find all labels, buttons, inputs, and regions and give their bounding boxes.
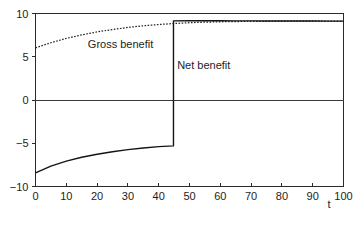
x-tick-label-0: 0 <box>32 190 38 202</box>
x-axis-title-label: t <box>327 198 330 210</box>
x-tick-label-30: 30 <box>122 190 134 202</box>
x-tick-label-70: 70 <box>245 190 257 202</box>
x-tick-label-40: 40 <box>153 190 165 202</box>
y-tick-label--10: −10 <box>10 181 29 193</box>
x-tick-label-100: 100 <box>334 190 352 202</box>
net-benefit-label: Net benefit <box>177 59 230 71</box>
x-axis-title: t <box>327 198 330 210</box>
y-tick-label-10: 10 <box>16 8 28 20</box>
gross-benefit-label: Gross benefit <box>88 38 153 50</box>
x-tick-label-50: 50 <box>183 190 195 202</box>
y-tick-label--5: −5 <box>16 137 29 149</box>
y-tick-label-5: 5 <box>22 51 28 63</box>
x-tick-label-10: 10 <box>60 190 72 202</box>
y-tick-label-0: 0 <box>22 94 28 106</box>
chart-figure: 0102030405060708090100 −10−50510 Gross b… <box>0 0 361 225</box>
benefit-over-time-chart: 0102030405060708090100 −10−50510 Gross b… <box>0 0 361 225</box>
x-tick-label-80: 80 <box>276 190 288 202</box>
x-tick-label-60: 60 <box>214 190 226 202</box>
x-tick-label-20: 20 <box>91 190 103 202</box>
x-tick-label-90: 90 <box>307 190 319 202</box>
